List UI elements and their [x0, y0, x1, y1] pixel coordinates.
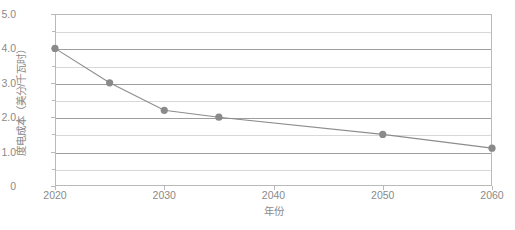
- x-tick-mark: [383, 186, 384, 190]
- x-axis-title: 年份: [55, 206, 492, 217]
- x-tick-mark: [492, 186, 493, 190]
- x-tick-mark: [55, 186, 56, 190]
- y-axis-title: 度电成本（美分/千瓦时）: [14, 14, 28, 186]
- x-tick-mark: [274, 186, 275, 190]
- x-tick-mark: [164, 186, 165, 190]
- x-tick-label: 2050: [360, 190, 406, 201]
- data-point-marker: [106, 79, 113, 86]
- x-tick-label: 2060: [469, 190, 515, 201]
- x-tick-label: 2030: [141, 190, 187, 201]
- series-line: [55, 48, 492, 148]
- line-chart: 01.02.03.04.05.0 20202030204020502060 度电…: [0, 0, 515, 230]
- data-point-marker: [215, 114, 222, 121]
- data-series-layer: [55, 14, 492, 186]
- series-markers: [51, 45, 495, 152]
- data-point-marker: [379, 131, 386, 138]
- data-point-marker: [51, 45, 58, 52]
- x-tick-label: 2020: [32, 190, 78, 201]
- data-point-marker: [488, 145, 495, 152]
- data-point-marker: [161, 107, 168, 114]
- x-tick-label: 2040: [251, 190, 297, 201]
